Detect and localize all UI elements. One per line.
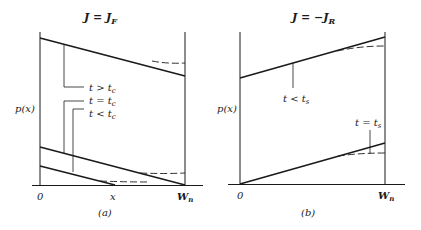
panel-a-y-label: p(x): [15, 103, 35, 114]
panel-a-profile-t-eq-tc-dashed: [140, 173, 185, 174]
panel-a-leader-t-gt-tc: [64, 44, 84, 87]
panel-a-x-mid: x: [110, 191, 116, 202]
panel-a-label-t-lt-tc: t < tc: [89, 108, 116, 121]
panel-b-profile-t-eq-ts: [240, 143, 385, 184]
panel-a-profile-t-gt-tc: [40, 38, 185, 76]
panel-a: J = JF t > tc t = tc t < tc p(x) 0 x Wn …: [15, 11, 203, 218]
panel-b-caption: (b): [301, 207, 315, 218]
panel-a-label-t-gt-tc: t > tc: [89, 82, 116, 95]
panel-a-profile-t-eq-tc: [40, 147, 185, 185]
panel-a-x-end: Wn: [177, 191, 193, 204]
panel-a-profile-t-lt-tc: [40, 166, 115, 185]
panel-a-profile-t-lt-tc-dashed: [100, 181, 150, 182]
panel-b-title: J = −JR: [290, 11, 336, 26]
panel-b-label-t-lt-ts: t < ts: [283, 93, 310, 106]
panel-a-caption: (a): [98, 207, 112, 218]
panel-a-leader-t-lt-tc: [73, 109, 84, 172]
panel-a-title: J = JF: [82, 11, 118, 26]
panel-b-label-t-eq-ts: t = ts: [355, 117, 382, 130]
panel-b-x-origin: 0: [237, 190, 244, 201]
panel-b-profile-t-lt-ts: [240, 37, 385, 78]
panel-a-label-t-eq-tc: t = tc: [89, 95, 116, 108]
panel-b: J = −JR t < ts t = ts p(x) 0 Wn (b): [217, 11, 405, 218]
panel-a-x-origin: 0: [37, 191, 44, 202]
panel-a-profile-t-gt-tc-dashed: [152, 61, 185, 63]
figure: J = JF t > tc t = tc t < tc p(x) 0 x Wn …: [0, 0, 421, 230]
panel-b-x-end: Wn: [378, 190, 394, 203]
panel-b-y-label: p(x): [217, 103, 237, 114]
